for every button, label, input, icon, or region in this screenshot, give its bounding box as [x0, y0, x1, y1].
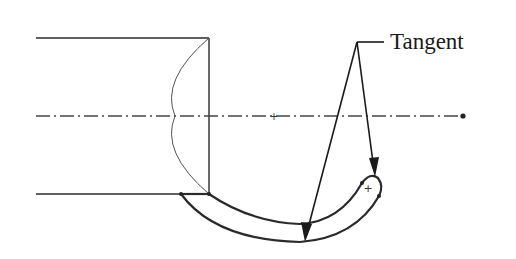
leader-to-end-cap — [357, 42, 374, 170]
sweep-tangent-diagram: + + Tangent — [0, 0, 516, 259]
slot-end-point-bottom — [377, 194, 381, 198]
slot-start-point — [179, 192, 183, 196]
leader-to-slot-bottom — [306, 42, 357, 236]
tangent-label: Tangent — [390, 29, 464, 54]
slot-inner-edge — [209, 183, 362, 224]
slot-corner-point — [207, 192, 211, 196]
arrowhead-slot-bottom-icon — [301, 222, 312, 242]
centerline-end-point — [460, 113, 465, 118]
end-cap-center-mark: + — [363, 182, 372, 195]
centerline-center-mark: + — [270, 111, 278, 122]
arrowhead-end-cap-icon — [369, 157, 379, 177]
